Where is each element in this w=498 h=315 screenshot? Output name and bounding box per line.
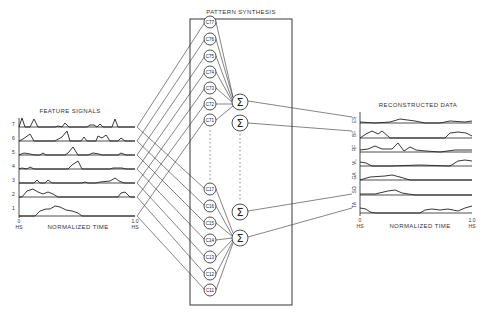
- sum-node-2: Σ: [232, 115, 248, 131]
- diagram-canvas: FEATURE SIGNALS 7 6 5 4 3: [0, 0, 498, 315]
- svg-text:C73: C73: [206, 86, 215, 91]
- svg-text:GA: GA: [351, 172, 357, 180]
- svg-text:C12: C12: [206, 272, 215, 277]
- svg-text:3: 3: [12, 177, 15, 183]
- svg-text:C75: C75: [206, 54, 215, 59]
- pattern-synthesis-panel: PATTERN SYNTHESIS C77 C76 C75 C74 C73 C7…: [190, 9, 292, 305]
- node-c76: C76: [204, 33, 216, 45]
- svg-text:5: 5: [12, 149, 15, 155]
- svg-text:ES: ES: [351, 116, 357, 123]
- svg-text:4: 4: [12, 163, 15, 169]
- svg-text:C15: C15: [206, 221, 215, 226]
- svg-text:C74: C74: [206, 70, 215, 75]
- node-c17: C17: [204, 183, 216, 195]
- svg-text:RF: RF: [351, 145, 357, 152]
- svg-text:C16: C16: [206, 204, 215, 209]
- feature-signals-panel: FEATURE SIGNALS 7 6 5 4 3: [12, 108, 139, 230]
- right-x-end-unit: HS: [469, 223, 477, 229]
- svg-text:C77: C77: [206, 20, 215, 25]
- svg-text:2: 2: [12, 191, 15, 197]
- recon-row-es: ES: [351, 116, 472, 123]
- recon-row-ga: GA: [351, 172, 472, 180]
- feature-row-4: 4: [12, 161, 135, 169]
- feature-row-2: 2: [12, 189, 135, 197]
- reconstructed-data-title: RECONSTRUCTED DATA: [379, 102, 457, 108]
- svg-text:1: 1: [12, 205, 15, 211]
- node-c71: C71: [204, 114, 216, 126]
- sum-node-4: Σ: [232, 230, 248, 246]
- feature-row-1: 1: [12, 205, 135, 216]
- recon-row-so: SO: [351, 186, 472, 195]
- svg-text:C14: C14: [206, 238, 215, 243]
- feature-to-node-connections: [137, 22, 205, 290]
- recon-row-vl: VL: [351, 159, 472, 166]
- sum-node-1: Σ: [232, 94, 248, 110]
- feature-row-6: 6: [12, 131, 135, 141]
- svg-text:Σ: Σ: [237, 232, 244, 245]
- node-c73: C73: [204, 82, 216, 94]
- node-c74: C74: [204, 66, 216, 78]
- node-c16: C16: [204, 200, 216, 212]
- recon-row-ta: TA: [351, 201, 472, 213]
- upper-node-to-sum-connections: [216, 22, 233, 120]
- svg-text:C17: C17: [206, 187, 215, 192]
- left-x-end-unit: HS: [132, 224, 140, 230]
- reconstructed-data-panel: RECONSTRUCTED DATA ES BF RF VL GA: [351, 102, 476, 229]
- sum-to-output-connections: [248, 101, 352, 237]
- left-x-label: NORMALIZED TIME: [47, 224, 108, 230]
- lower-node-to-sum-connections: [216, 189, 233, 290]
- svg-text:C11: C11: [206, 288, 214, 293]
- feature-row-5: 5: [12, 147, 135, 155]
- svg-text:6: 6: [12, 135, 15, 141]
- node-c11: C11: [204, 284, 216, 296]
- right-x-start-unit: HS: [357, 223, 365, 229]
- recon-row-rf: RF: [351, 143, 472, 152]
- left-x-start-unit: HS: [16, 224, 24, 230]
- svg-text:C72: C72: [206, 102, 215, 107]
- svg-text:TA: TA: [351, 201, 357, 208]
- feature-signals-title: FEATURE SIGNALS: [39, 108, 100, 114]
- svg-text:C76: C76: [206, 37, 215, 42]
- svg-text:SO: SO: [351, 186, 357, 193]
- svg-text:7: 7: [12, 121, 15, 127]
- svg-text:C71: C71: [206, 118, 215, 123]
- node-c72: C72: [204, 98, 216, 110]
- svg-text:Σ: Σ: [237, 96, 244, 109]
- feature-row-3: 3: [12, 177, 135, 183]
- node-c14: C14: [204, 234, 216, 246]
- svg-text:Σ: Σ: [237, 117, 244, 130]
- sum-node-3: Σ: [232, 204, 248, 220]
- svg-text:BF: BF: [351, 131, 357, 137]
- svg-text:Σ: Σ: [237, 206, 244, 219]
- feature-row-7: 7: [12, 118, 135, 127]
- pattern-synthesis-title: PATTERN SYNTHESIS: [206, 9, 276, 15]
- node-c77: C77: [204, 16, 216, 28]
- node-c75: C75: [204, 50, 216, 62]
- node-c15: C15: [204, 217, 216, 229]
- svg-text:VL: VL: [351, 159, 357, 165]
- right-x-label: NORMALIZED TIME: [389, 223, 450, 229]
- recon-row-bf: BF: [351, 131, 472, 138]
- node-c12: C12: [204, 268, 216, 280]
- node-c13: C13: [204, 251, 216, 263]
- svg-text:C13: C13: [206, 255, 215, 260]
